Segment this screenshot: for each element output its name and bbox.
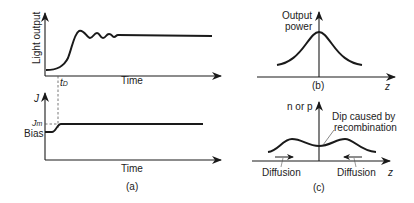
- caption-b: (b): [312, 81, 324, 91]
- panel-a-bottom-axes: [45, 93, 221, 160]
- diffusion-right-label: Diffusion: [337, 168, 376, 178]
- j-ylabel: J: [34, 94, 39, 104]
- light-output-ylabel: Light output: [32, 12, 42, 64]
- current-step-curve: [45, 124, 203, 132]
- panel-b-axes: [257, 12, 395, 77]
- td-sub: D: [63, 80, 68, 87]
- z-xlabel-c: z: [388, 168, 393, 178]
- bias-label: Bias: [24, 129, 43, 139]
- dip-annotation-line1: Dip caused by: [332, 112, 395, 122]
- light-output-curve: [46, 31, 212, 70]
- td-label: tD: [60, 78, 68, 88]
- jm-label: Jm: [32, 119, 42, 128]
- z-xlabel-b: z: [385, 82, 390, 92]
- carrier-density-curve: [268, 139, 376, 152]
- output-power-ylabel-line2: power: [285, 22, 312, 32]
- caption-a: (a): [126, 182, 138, 192]
- jm-sub: m: [37, 120, 43, 127]
- caption-c: (c): [313, 183, 325, 193]
- diffusion-leader-right: [354, 158, 356, 167]
- diffusion-leader-left: [281, 158, 283, 167]
- top-time-xlabel: Time: [121, 76, 143, 86]
- output-power-ylabel-line1: Output: [282, 11, 312, 21]
- bottom-time-xlabel: Time: [121, 164, 143, 174]
- dip-annotation-line2: recombination: [334, 123, 397, 133]
- diffusion-left-label: Diffusion: [262, 168, 301, 178]
- n-or-p-ylabel: n or p: [287, 102, 313, 112]
